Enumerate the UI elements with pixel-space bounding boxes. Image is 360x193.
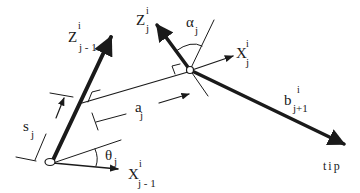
x-j-axis xyxy=(192,56,233,70)
kinematic-diagram: Z i j - 1 Z i j α j X i j b i j+1 tip a … xyxy=(0,0,360,193)
s-label: s j xyxy=(23,119,29,134)
z-prev-axis xyxy=(53,37,111,160)
alpha-label: α j xyxy=(186,15,194,30)
joint-j-circle xyxy=(187,67,194,74)
x-prev-label: X i j - 1 xyxy=(128,167,139,182)
b-label: b i j+1 xyxy=(284,93,292,108)
a-label: a j xyxy=(135,100,142,115)
x-prev-axis xyxy=(53,163,118,169)
joint-j-1-circle xyxy=(45,159,55,166)
z-j-label: Z i j xyxy=(136,13,145,28)
tip-label: tip xyxy=(323,160,342,172)
theta-label: θ j xyxy=(105,148,112,163)
z-prev-label: Z i j - 1 xyxy=(68,30,77,45)
b-vector xyxy=(190,70,344,144)
diagram-lines xyxy=(0,0,360,193)
z-j-axis xyxy=(157,25,190,70)
x-j-label: X i j xyxy=(236,46,247,61)
